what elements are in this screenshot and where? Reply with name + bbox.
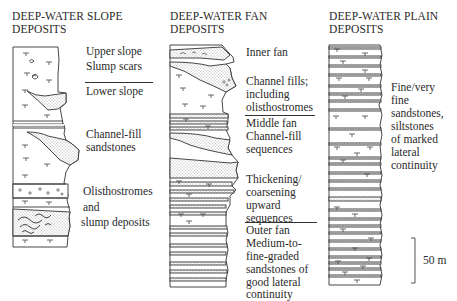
slope-column — [13, 47, 79, 247]
label-outer-fan: Outer fan — [246, 224, 290, 237]
label-inner-fan: Inner fan — [246, 46, 288, 59]
label-sequences: sequences — [246, 143, 293, 156]
label-sandstones-of: sandstones of — [246, 263, 308, 276]
label-lateral: lateral — [391, 146, 420, 159]
scale-label: 50 m — [423, 254, 446, 267]
plain-column — [329, 45, 382, 285]
label-and: and — [83, 201, 100, 214]
label-channel-fill-fan: Channel-fill — [246, 130, 302, 143]
label-slump-scars: Slump scars — [86, 60, 142, 73]
label-upward: upward — [246, 199, 281, 212]
label-upper-slope: Upper slope — [86, 45, 142, 58]
label-siltstones: siltstones — [391, 120, 434, 133]
label-sandstones: sandstones — [86, 141, 136, 154]
label-of-marked: of marked — [391, 133, 438, 146]
label-slump-deposits: slump deposits — [81, 216, 150, 229]
label-channel-fills: Channel fills; — [246, 75, 308, 88]
label-sandstones-plain: sandstones, — [391, 107, 444, 120]
divider-slope — [85, 82, 153, 83]
fan-column — [170, 45, 238, 287]
divider-fan-outer — [245, 222, 317, 223]
label-medium-to: Medium-to- — [246, 237, 302, 250]
label-channel-fill: Channel-fill — [86, 128, 142, 141]
label-middle-fan: Middle fan — [246, 117, 297, 130]
divider-fan-middle — [245, 115, 315, 116]
label-fine-very: Fine/very — [391, 81, 435, 94]
label-thickening: Thickening/ — [246, 173, 302, 186]
label-fine-graded: fine-graded — [246, 250, 299, 263]
scale-bar — [411, 238, 415, 283]
label-olisthostromes-fan: olisthostromes — [246, 101, 313, 114]
label-coarsening: coarsening — [246, 186, 296, 199]
label-continuity-plain: continuity — [391, 159, 438, 172]
label-lower-slope: Lower slope — [86, 85, 143, 98]
label-olisthostromes: Olisthostromes — [83, 185, 153, 198]
label-including: including — [246, 88, 289, 101]
label-fine: fine — [391, 94, 409, 107]
label-continuity-fan: continuity — [246, 288, 293, 301]
